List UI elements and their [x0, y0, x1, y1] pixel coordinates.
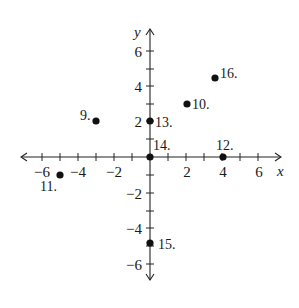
point-label: 10. — [192, 97, 210, 112]
point-label: 11. — [40, 179, 57, 194]
coordinate-plane: −6 −4 −2 2 4 6 x 6 4 2 −2 −4 −6 y 9 — [0, 0, 299, 308]
y-tick-label: −6 — [126, 257, 142, 273]
point-label: 15. — [158, 237, 176, 252]
y-axis-label: y — [132, 24, 141, 40]
point-15: 15. — [146, 237, 175, 252]
point-label: 9. — [80, 108, 91, 123]
point-9: 9. — [80, 108, 100, 125]
point-label: 13. — [155, 115, 173, 130]
y-tick-label: 2 — [135, 114, 143, 130]
y-tick-label: −2 — [126, 186, 142, 202]
x-tick-label: −2 — [106, 164, 122, 180]
y-tick-label: 4 — [135, 79, 143, 95]
y-tick-label: −4 — [126, 221, 142, 237]
x-axis-label: x — [276, 163, 284, 179]
point-16: 16. — [211, 66, 237, 82]
point-label: 16. — [220, 66, 238, 81]
x-tick-label: −6 — [34, 164, 50, 180]
y-tick-label: 6 — [135, 44, 143, 60]
x-tick-label: 2 — [183, 164, 191, 180]
point-label: 12. — [216, 138, 234, 153]
point-10: 10. — [183, 97, 209, 112]
x-tick-label: −4 — [70, 164, 86, 180]
point-label: 14. — [153, 138, 171, 153]
x-tick-label: 6 — [255, 164, 263, 180]
x-tick-label: 4 — [219, 164, 227, 180]
